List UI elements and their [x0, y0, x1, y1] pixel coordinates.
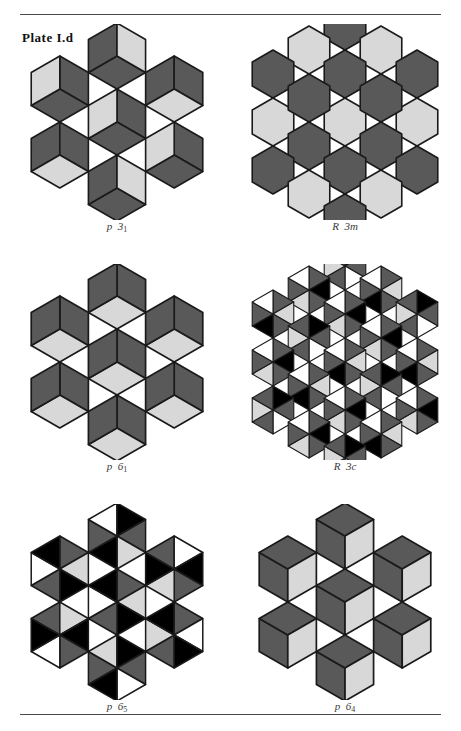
figure-caption-p61: p 61: [2, 460, 232, 474]
caption-subscript: c: [351, 460, 356, 472]
figure-caption-p31: p 31: [2, 220, 232, 234]
figure-cell-p31: p 31: [2, 24, 232, 254]
caption-subscript: 1: [123, 225, 127, 234]
figure-R3m: [230, 24, 460, 224]
caption-prefix: R: [334, 460, 341, 472]
figure-cell-p61: p 61: [2, 264, 232, 494]
figure-R3c: [230, 264, 460, 464]
tiling-svg-p64: [245, 504, 445, 700]
figure-cell-p64: p 64: [230, 504, 460, 731]
caption-prefix: p: [107, 460, 113, 472]
caption-subscript: m: [350, 220, 358, 232]
figure-p64: [230, 504, 460, 704]
figure-cell-R3m: R 3m: [230, 24, 460, 254]
plate-label: Plate I.d: [22, 30, 73, 46]
figure-p65: [2, 504, 232, 704]
tiling-svg-p65: [17, 504, 217, 700]
caption-subscript: 4: [351, 705, 355, 714]
plate-page: Plate I.d: [0, 0, 461, 731]
figure-p61: [2, 264, 232, 464]
figure-caption-R3m: R 3m: [230, 220, 460, 232]
header-rule: [20, 14, 441, 15]
figure-grid: p 31: [0, 18, 461, 708]
figure-p31: [2, 24, 232, 224]
figure-caption-p65: p 65: [2, 700, 232, 714]
caption-prefix: R: [332, 220, 339, 232]
figure-caption-R3c: R 3c: [230, 460, 460, 472]
figure-caption-p64: p 64: [230, 700, 460, 714]
caption-subscript: 1: [123, 465, 127, 474]
caption-subscript: 5: [123, 705, 127, 714]
tiling-svg-R3c: [245, 264, 445, 460]
tiling-svg-p61: [17, 264, 217, 460]
figure-cell-p65: p 65: [2, 504, 232, 731]
tiling-svg-p31: [17, 24, 217, 220]
caption-prefix: p: [335, 700, 341, 712]
caption-prefix: p: [107, 700, 113, 712]
figure-cell-R3c: R 3c: [230, 264, 460, 494]
tiling-svg-R3m: [245, 24, 445, 220]
caption-prefix: p: [107, 220, 113, 232]
